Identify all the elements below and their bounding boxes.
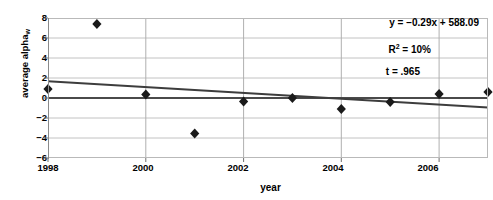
y-tick-label-neg4: −4 [13,133,47,142]
data-point-2004 [337,104,346,114]
r-squared-label: R2 = 10% [388,43,431,55]
r-squared-value: = 10% [400,44,431,55]
y-tick-label-8: 8 [13,13,47,22]
vertical-gridlines [146,18,439,158]
t-statistic-label: t = .965 [386,66,420,77]
y-axis-line [48,18,49,159]
x-axis-ticks [48,158,439,162]
y-tick-label-4: 4 [13,53,47,62]
x-tick-label-1998: 1998 [25,162,71,173]
data-point-2007 [483,87,492,97]
y-tick-label-2: 2 [13,73,47,82]
data-point-markers [43,19,492,139]
chart-container: average alphaw 8 6 4 2 0 −2 −4 −6 1998 2… [0,0,493,200]
plot-area [48,18,488,158]
x-axis-title: year [48,182,493,193]
x-tick-label-2000: 2000 [120,162,166,173]
r-squared-symbol: R [388,44,395,55]
trend-line [48,81,488,107]
y-axis-title-text: average alpha [19,35,30,98]
y-tick-label-neg6: −6 [13,153,47,162]
y-tick-label-0: 0 [13,93,47,102]
data-point-1999 [92,19,101,29]
data-point-2003 [288,93,297,103]
y-tick-label-6: 6 [13,33,47,42]
x-tick-label-2006: 2006 [405,162,451,173]
regression-equation-label: y = −0.29x + 588.09 [389,17,479,28]
x-tick-label-2002: 2002 [215,162,261,173]
y-tick-label-neg2: −2 [13,113,47,122]
x-tick-label-2004: 2004 [310,162,356,173]
chart-canvas [48,18,488,158]
data-point-2001 [190,129,199,139]
